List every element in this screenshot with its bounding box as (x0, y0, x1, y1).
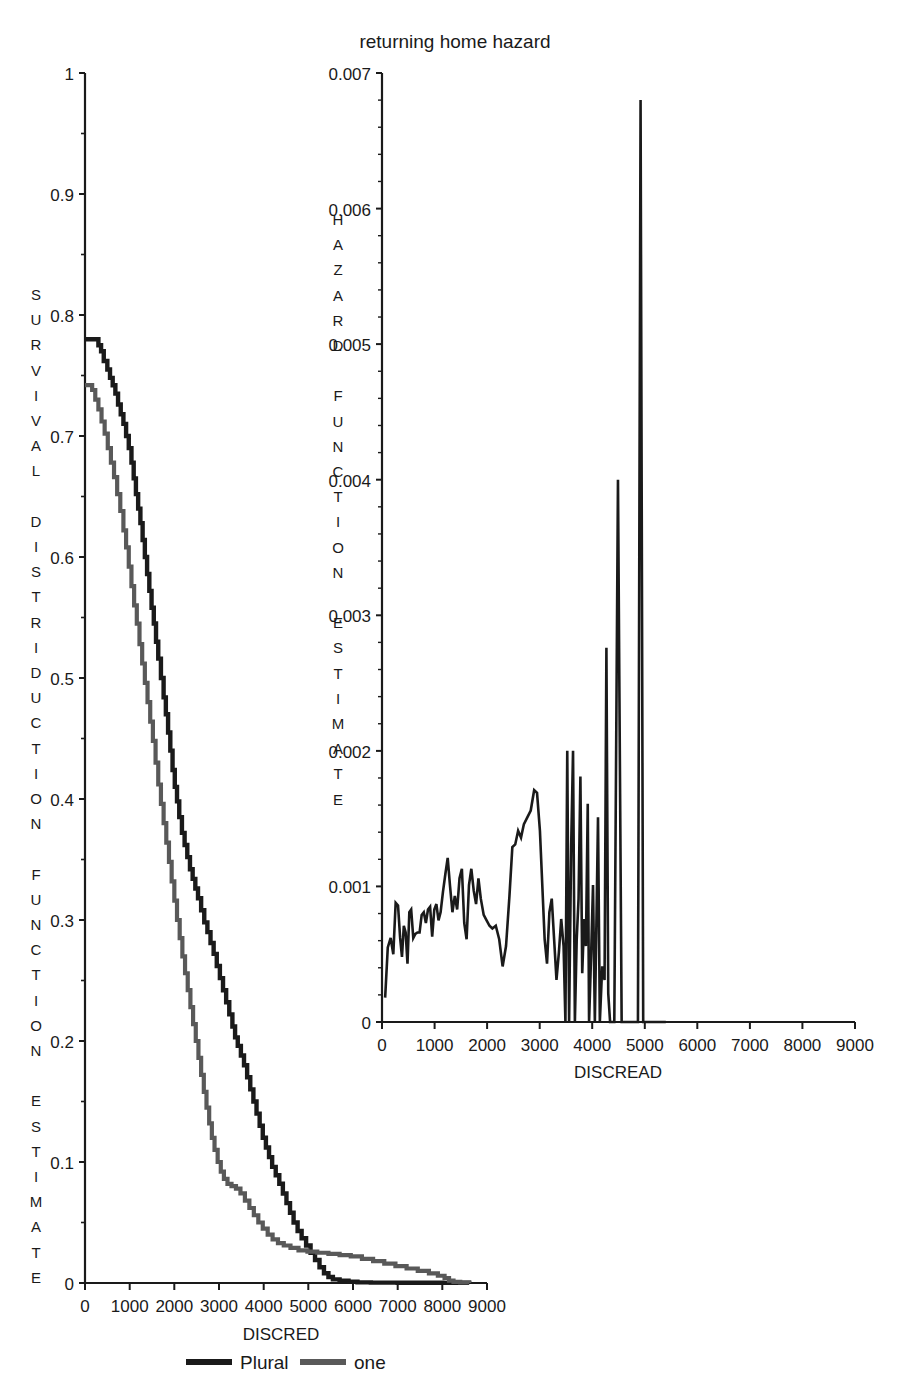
survival-ylabel-letter: S (31, 1118, 41, 1135)
survival-ylabel-letter: U (31, 311, 42, 328)
figure-svg: 0 0.1 0.2 0.3 0.4 0.5 0.6 0.7 0.8 0.9 1 (0, 0, 905, 1393)
hazard-ylabel-letter: E (333, 791, 343, 808)
survival-ylabel-letter: A (31, 437, 41, 454)
hazard-ylabel-letter: C (333, 463, 344, 480)
survival-xtick-1: 1000 (111, 1297, 149, 1316)
hazard-xtick-8: 8000 (783, 1036, 821, 1055)
hazard-ylabel-letter: E (333, 614, 343, 631)
hazard-xtick-9: 9000 (836, 1036, 874, 1055)
survival-xtick-3: 3000 (200, 1297, 238, 1316)
hazard-ylabel-letter: A (333, 236, 343, 253)
chart-title: returning home hazard (359, 31, 550, 52)
survival-ylabel-letter: T (31, 1143, 40, 1160)
survival-ylabel-letter: I (34, 639, 38, 656)
hazard-ylabel-letter: M (332, 715, 345, 732)
survival-ylabel-letter: S (31, 286, 41, 303)
survival-ylabel-letter: A (31, 1218, 41, 1235)
hazard-ylabel-letter: I (336, 513, 340, 530)
hazard-line (385, 100, 666, 1022)
hazard-ylabel-letter: A (333, 287, 343, 304)
survival-ylabel-letter: E (31, 1269, 41, 1286)
legend-label-plural: Plural (240, 1352, 289, 1373)
survival-ytick-2: 0.2 (50, 1033, 74, 1052)
hazard-x-tick-labels: 0 1000 2000 3000 4000 5000 6000 7000 800… (377, 1036, 874, 1055)
survival-ylabel-letter: I (34, 765, 38, 782)
hazard-ytick-0: 0 (362, 1014, 371, 1033)
survival-ylabel-letter: T (31, 1244, 40, 1261)
hazard-xtick-0: 0 (377, 1036, 386, 1055)
survival-ylabel-letter: I (34, 387, 38, 404)
hazard-ylabel-letter: A (333, 740, 343, 757)
survival-ylabel-letter: O (30, 790, 42, 807)
figure-root: 0 0.1 0.2 0.3 0.4 0.5 0.6 0.7 0.8 0.9 1 (0, 0, 905, 1393)
hazard-x-axis-title: DISCREAD (574, 1063, 662, 1082)
survival-line-one (85, 385, 469, 1283)
hazard-ylabel-letter: I (336, 690, 340, 707)
survival-ylabel-letter: C (31, 941, 42, 958)
survival-ylabel-letter: O (30, 1017, 42, 1034)
survival-ylabel-letter: F (31, 866, 40, 883)
survival-ylabel-letter: C (31, 714, 42, 731)
hazard-ytick-7: 0.007 (328, 65, 371, 84)
hazard-y-axis-title: HAZARDFUNCTIONESTIMATE (332, 211, 345, 808)
survival-ytick-4: 0.4 (50, 791, 74, 810)
survival-ylabel-letter: T (31, 740, 40, 757)
hazard-ylabel-letter: U (333, 413, 344, 430)
hazard-ylabel-letter: N (333, 438, 344, 455)
survival-line-plural (85, 339, 469, 1283)
survival-ylabel-letter: I (34, 992, 38, 1009)
survival-xtick-0: 0 (80, 1297, 89, 1316)
hazard-ylabel-letter: D (333, 337, 344, 354)
survival-ylabel-letter: R (31, 614, 42, 631)
survival-ylabel-letter: M (30, 1193, 43, 1210)
survival-ytick-10: 1 (65, 65, 74, 84)
hazard-ylabel-letter: H (333, 211, 344, 228)
survival-ylabel-letter: V (31, 362, 41, 379)
survival-ytick-3: 0.3 (50, 912, 74, 931)
survival-ylabel-letter: N (31, 815, 42, 832)
survival-xtick-7: 7000 (379, 1297, 417, 1316)
survival-ytick-7: 0.7 (50, 428, 74, 447)
survival-y-axis-title: SURVIVALDISTRIDUCTIONFUNCTIONESTIMATE (30, 286, 43, 1286)
hazard-ylabel-letter: R (333, 312, 344, 329)
survival-ylabel-letter: U (31, 891, 42, 908)
survival-ylabel-letter: I (34, 538, 38, 555)
hazard-xtick-5: 5000 (626, 1036, 664, 1055)
survival-ylabel-letter: D (31, 513, 42, 530)
legend: Plural one (186, 1352, 386, 1373)
hazard-ylabel-letter: O (332, 539, 344, 556)
survival-ytick-5: 0.5 (50, 670, 74, 689)
survival-xtick-6: 6000 (334, 1297, 372, 1316)
survival-ylabel-letter: R (31, 336, 42, 353)
survival-ytick-9: 0.9 (50, 186, 74, 205)
survival-ylabel-letter: T (31, 966, 40, 983)
survival-ylabel-letter: V (31, 412, 41, 429)
survival-ylabel-letter: S (31, 563, 41, 580)
survival-x-axis-title: DISCRED (243, 1325, 320, 1344)
survival-ylabel-letter: T (31, 588, 40, 605)
survival-x-tick-labels: 0 1000 2000 3000 4000 5000 6000 7000 800… (80, 1297, 506, 1316)
hazard-xtick-3: 3000 (521, 1036, 559, 1055)
survival-ytick-0: 0 (65, 1275, 74, 1294)
hazard-ytick-1: 0.001 (328, 878, 371, 897)
hazard-ylabel-letter: T (333, 765, 342, 782)
survival-ylabel-letter: L (32, 462, 40, 479)
survival-xtick-5: 5000 (289, 1297, 327, 1316)
hazard-xtick-4: 4000 (573, 1036, 611, 1055)
hazard-chart: returning home hazard 0 0.001 0.002 0.00… (328, 31, 873, 1082)
hazard-ylabel-letter: F (333, 387, 342, 404)
survival-ylabel-letter: I (34, 1168, 38, 1185)
legend-label-one: one (354, 1352, 386, 1373)
hazard-ylabel-letter: T (333, 488, 342, 505)
survival-y-tick-labels: 0 0.1 0.2 0.3 0.4 0.5 0.6 0.7 0.8 0.9 1 (50, 65, 74, 1294)
survival-series-group (85, 339, 469, 1283)
survival-ytick-8: 0.8 (50, 307, 74, 326)
hazard-ylabel-letter: S (333, 639, 343, 656)
hazard-xtick-2: 2000 (468, 1036, 506, 1055)
survival-ytick-1: 0.1 (50, 1154, 74, 1173)
survival-xtick-9: 9000 (468, 1297, 506, 1316)
hazard-xtick-1: 1000 (416, 1036, 454, 1055)
hazard-ylabel-letter: Z (333, 261, 342, 278)
hazard-xtick-7: 7000 (731, 1036, 769, 1055)
hazard-ylabel-letter: N (333, 564, 344, 581)
